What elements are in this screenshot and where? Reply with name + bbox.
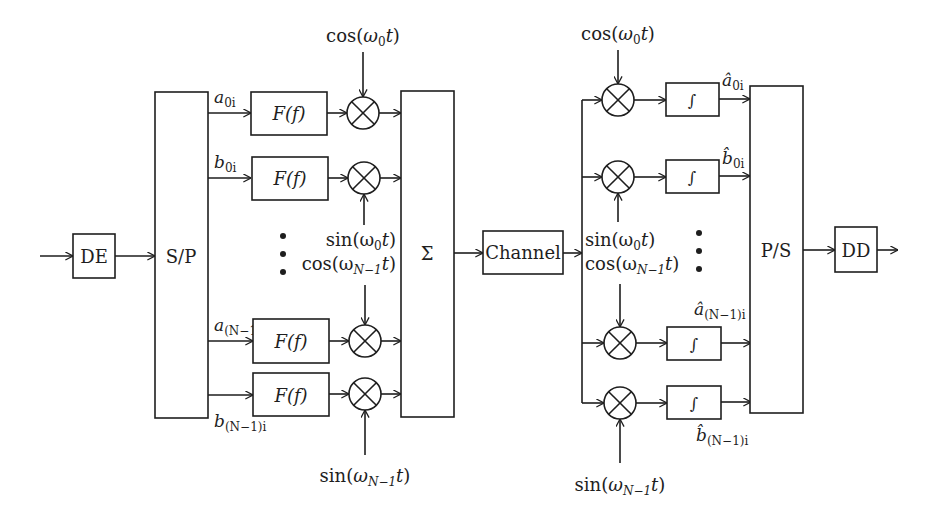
summer-block: Σ xyxy=(401,91,454,417)
rx-ellipsis-icon xyxy=(696,230,702,272)
tx-carrier-sin0: sin(ω0t) xyxy=(326,229,396,253)
integral-icon: ∫ xyxy=(690,335,698,354)
sp-block: S/P xyxy=(155,92,208,418)
summer-label: Σ xyxy=(421,243,434,264)
svg-text:F(f): F(f) xyxy=(272,168,306,189)
rx-mixer-1-icon xyxy=(602,84,634,116)
de-label: DE xyxy=(80,246,108,267)
integrator-block-3: ∫ xyxy=(667,327,721,360)
filter-block-1: F(f) xyxy=(251,92,327,135)
tx-carrier-cos0: cos(ω0t) xyxy=(326,25,400,49)
channel-block: Channel xyxy=(483,231,563,274)
label-a0i: a0i xyxy=(214,87,236,110)
label-b0i-hat: b̂0i xyxy=(722,147,745,171)
label-a0i-hat: â0i xyxy=(722,70,744,93)
label-b0i: b0i xyxy=(214,152,237,175)
ofdm-block-diagram: DE S/P a0i b0i a(N−1)i b(N−1)i F(f) F(f)… xyxy=(0,0,940,525)
ps-label: P/S xyxy=(761,240,792,261)
tx-mixer-2-icon xyxy=(348,162,380,194)
rx-mixer-3-icon xyxy=(604,327,636,359)
rx-carrier-sin0: sin(ω0t) xyxy=(585,229,655,253)
integrator-block-2: ∫ xyxy=(666,160,719,193)
channel-label: Channel xyxy=(485,242,561,263)
integral-icon: ∫ xyxy=(688,91,696,110)
rx-mixer-4-icon xyxy=(604,387,636,419)
label-bN1i-hat: b̂(N−1)i xyxy=(696,424,748,448)
filter-block-4: F(f) xyxy=(253,373,329,416)
tx-mixer-4-icon xyxy=(349,378,381,410)
integrator-block-1: ∫ xyxy=(666,83,719,116)
tx-carrier-cosN: cos(ωN−1t) xyxy=(302,253,396,277)
dd-label: DD xyxy=(842,240,871,261)
filter-block-3: F(f) xyxy=(253,319,329,363)
sp-label: S/P xyxy=(166,246,197,267)
filter-block-2: F(f) xyxy=(252,157,328,200)
dd-block: DD xyxy=(835,227,877,272)
rx-carrier-cos0: cos(ω0t) xyxy=(581,23,655,47)
integral-icon: ∫ xyxy=(690,394,698,413)
tx-carrier-sinN: sin(ωN−1t) xyxy=(320,465,411,489)
rx-carrier-sinN: sin(ωN−1t) xyxy=(575,474,666,498)
integrator-block-4: ∫ xyxy=(667,386,721,419)
de-block: DE xyxy=(73,234,115,278)
svg-text:F(f): F(f) xyxy=(271,103,305,124)
rx-carrier-cosN: cos(ωN−1t) xyxy=(585,253,679,277)
svg-text:F(f): F(f) xyxy=(273,331,307,352)
tx-mixer-3-icon xyxy=(349,325,381,357)
svg-text:F(f): F(f) xyxy=(273,385,307,406)
label-aN1i-hat: â(N−1)i xyxy=(694,299,746,322)
tx-mixer-1-icon xyxy=(347,97,379,129)
integral-icon: ∫ xyxy=(688,168,696,187)
ps-block: P/S xyxy=(750,86,803,413)
tx-ellipsis-icon xyxy=(280,233,286,275)
rx-mixer-2-icon xyxy=(602,161,634,193)
